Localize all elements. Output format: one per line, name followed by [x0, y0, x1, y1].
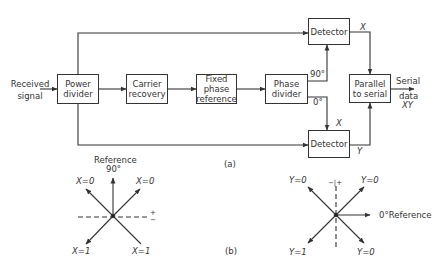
- y0-upper-left-label: Y=0: [289, 175, 307, 185]
- parallel-to-serial-label: Parallel to serial: [350, 79, 390, 99]
- minus-plus-sign: −|+: [328, 178, 342, 188]
- received-signal-label: Received signal: [6, 78, 54, 102]
- carrier-recovery-block: Carrier recovery: [126, 74, 168, 104]
- detector-top-label: Detector: [310, 27, 347, 37]
- x0-upper-left-label: X=0: [76, 176, 94, 186]
- detector-bottom-label: Detector: [310, 139, 347, 149]
- y0-lower-right-label: Y=0: [357, 247, 375, 257]
- reference-90-label-line2: 90°: [106, 164, 121, 174]
- y1-lower-left-label: Y=1: [289, 247, 307, 257]
- fixed-phase-reference-label: Fixed phase reference: [196, 74, 237, 104]
- reference-0-label: 0°Reference: [379, 210, 431, 220]
- parallel-to-serial-block: Parallel to serial: [349, 74, 391, 103]
- connection-lines: [0, 0, 448, 271]
- phase-divider-block: Phase divider: [265, 74, 308, 104]
- power-divider-block: Power divider: [57, 74, 99, 104]
- minus-sign: −: [150, 215, 156, 225]
- phase-90-label: 90°: [310, 69, 325, 79]
- carrier-recovery-label: Carrier recovery: [127, 79, 167, 99]
- serial-label: Serial: [396, 76, 420, 86]
- phasor-diagram-x: [78, 178, 150, 244]
- y-bottom-label: Y: [357, 146, 362, 156]
- fixed-phase-reference-block: Fixed phase reference: [196, 74, 237, 104]
- part-b-label: (b): [225, 246, 237, 256]
- detector-bottom-block: Detector: [308, 130, 350, 158]
- x-top-label: X: [360, 22, 366, 32]
- x1-lower-left-label: X=1: [72, 246, 90, 256]
- x0-upper-right-label: X=0: [136, 176, 154, 186]
- xy-label: XY: [402, 100, 413, 110]
- power-divider-label: Power divider: [58, 79, 98, 99]
- phasor-diagram-y: [308, 186, 370, 250]
- detector-top-block: Detector: [308, 18, 350, 45]
- phase-divider-label: Phase divider: [266, 79, 307, 99]
- x-mid-label: X: [336, 118, 342, 128]
- x1-lower-right-label: X=1: [132, 246, 150, 256]
- phase-0-label: 0°: [313, 97, 323, 107]
- part-a-label: (a): [224, 159, 236, 169]
- y0-upper-right-label: Y=0: [361, 175, 379, 185]
